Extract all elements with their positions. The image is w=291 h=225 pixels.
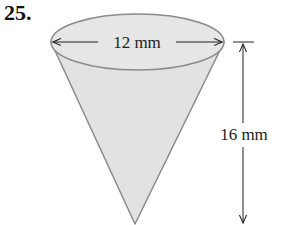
diameter-label: 12 mm <box>113 33 161 52</box>
height-dimension: 16 mm <box>220 42 268 223</box>
height-label: 16 mm <box>220 125 268 144</box>
cone-diagram: 12 mm 16 mm <box>0 0 291 225</box>
